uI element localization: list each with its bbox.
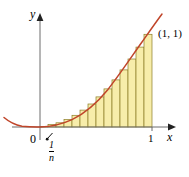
x-tick-label-one: 1 — [148, 133, 154, 144]
y-axis-label: y — [30, 8, 35, 20]
bar-11 — [120, 70, 128, 127]
origin-label: 0 — [30, 133, 36, 145]
fraction-denominator: n — [49, 153, 54, 164]
figure-riemann-sum: y x 0 1 (1, 1) 1 n — [0, 0, 189, 177]
bar-9 — [104, 89, 112, 127]
y-axis-arrowhead — [37, 13, 44, 21]
fraction-numerator: 1 — [49, 140, 54, 151]
rectangles-group — [40, 34, 152, 127]
subinterval-width-label: 1 n — [49, 140, 54, 163]
bar-14 — [144, 34, 152, 127]
bar-13 — [136, 47, 144, 127]
bar-12 — [128, 59, 136, 127]
x-axis-label: x — [167, 131, 172, 143]
width-pointer-line — [48, 133, 53, 139]
bar-7 — [88, 104, 96, 127]
bar-10 — [112, 80, 120, 127]
curve-point-label: (1, 1) — [158, 28, 182, 39]
